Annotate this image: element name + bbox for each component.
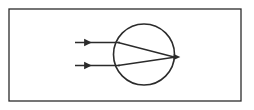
figure-root	[0, 0, 254, 110]
ray-diagram-canvas	[0, 0, 254, 110]
figure-border	[9, 9, 241, 101]
